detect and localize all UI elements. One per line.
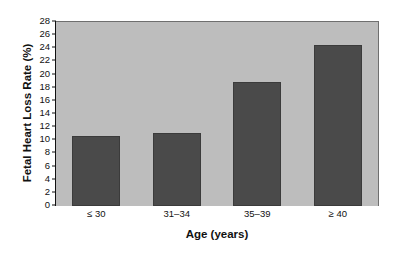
bar-chart-figure: Fetal Heart Loss Rate (%) 02468101214161…	[0, 0, 393, 254]
x-axis-title: Age (years)	[56, 228, 378, 240]
bar	[314, 45, 362, 206]
x-axis-tick-label: 35–39	[244, 208, 270, 220]
bar	[153, 133, 201, 206]
y-axis-tick-mark	[52, 113, 56, 114]
x-axis-tick-labels: ≤ 3031–3435–39≥ 40	[56, 208, 378, 222]
y-axis-tick-mark	[52, 139, 56, 140]
bar	[72, 136, 120, 206]
y-axis-tick-mark	[52, 73, 56, 74]
y-axis-tick-label: 12	[26, 121, 50, 131]
y-axis-tick-label: 28	[26, 16, 50, 26]
y-axis-tick-label: 14	[26, 108, 50, 118]
y-axis-tick-mark	[52, 152, 56, 153]
y-axis-tick-mark	[52, 126, 56, 127]
y-axis-tick-mark	[52, 99, 56, 100]
y-axis-tick-label: 24	[26, 43, 50, 53]
y-axis-tick-mark	[52, 191, 56, 192]
y-axis-tick-label: 4	[26, 174, 50, 184]
y-axis-tick-mark	[52, 21, 56, 22]
y-axis-tick-label: 18	[26, 82, 50, 92]
y-axis-tick-label: 6	[26, 161, 50, 171]
x-axis-tick-label: ≤ 30	[87, 208, 105, 220]
y-axis-tick-labels: 0246810121416182022242628	[26, 21, 50, 205]
y-axis-tick-mark	[52, 165, 56, 166]
x-axis-tick-label: ≥ 40	[329, 208, 347, 220]
y-axis-tick-label: 0	[26, 200, 50, 210]
y-axis-tick-mark	[52, 34, 56, 35]
y-axis-tick-mark	[52, 60, 56, 61]
y-axis-tick-label: 8	[26, 148, 50, 158]
y-axis-tick-label: 10	[26, 135, 50, 145]
y-axis-tick-label: 16	[26, 95, 50, 105]
y-axis-tick-mark	[52, 178, 56, 179]
bar	[233, 82, 281, 206]
y-axis-tick-mark	[52, 86, 56, 87]
y-axis-tick-label: 22	[26, 56, 50, 66]
y-axis-tick-label: 2	[26, 187, 50, 197]
y-axis-tick-label: 26	[26, 29, 50, 39]
y-axis-tick-mark	[52, 47, 56, 48]
y-axis-tick-label: 20	[26, 69, 50, 79]
plot-area	[56, 21, 379, 206]
y-axis-tick-mark	[52, 205, 56, 206]
x-axis-tick-label: 31–34	[164, 208, 190, 220]
